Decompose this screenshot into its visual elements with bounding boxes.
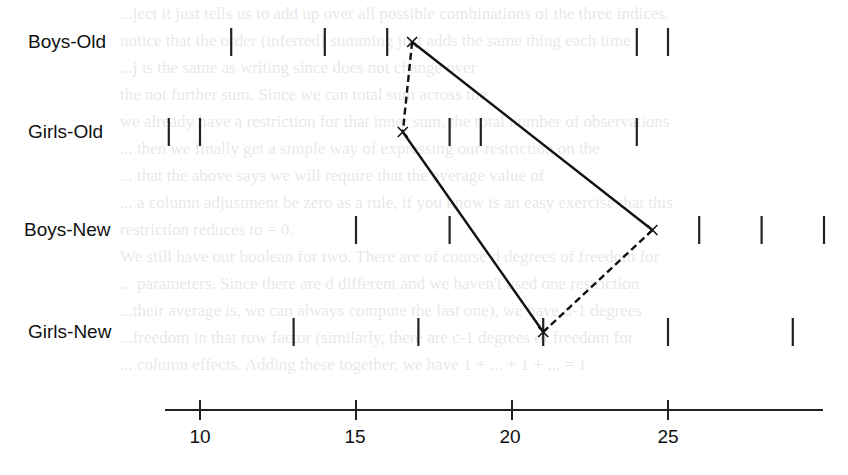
means-diamond xyxy=(398,37,658,337)
solid-edge xyxy=(403,132,543,332)
dashed-edge xyxy=(543,230,652,332)
x-tick-label-15: 15 xyxy=(344,426,365,447)
row-label-girls-new: Girls-New xyxy=(28,321,112,342)
dashed-edge xyxy=(403,42,412,132)
x-axis: 10 15 20 25 xyxy=(165,400,823,447)
strip-plot: Boys-Old Girls-Old Boys-New Girls-New 10… xyxy=(0,0,848,475)
data-ticks xyxy=(169,28,824,346)
row-label-boys-new: Boys-New xyxy=(24,219,111,240)
mean-marker-icon xyxy=(647,225,657,235)
row-label-boys-old: Boys-Old xyxy=(28,31,106,52)
mean-marker-icon xyxy=(398,127,408,137)
row-labels: Boys-Old Girls-Old Boys-New Girls-New xyxy=(24,31,112,342)
x-tick-label-25: 25 xyxy=(657,426,678,447)
x-tick-label-10: 10 xyxy=(189,426,210,447)
x-tick-label-20: 20 xyxy=(499,426,520,447)
solid-edge xyxy=(412,42,652,230)
row-label-girls-old: Girls-Old xyxy=(28,121,103,142)
